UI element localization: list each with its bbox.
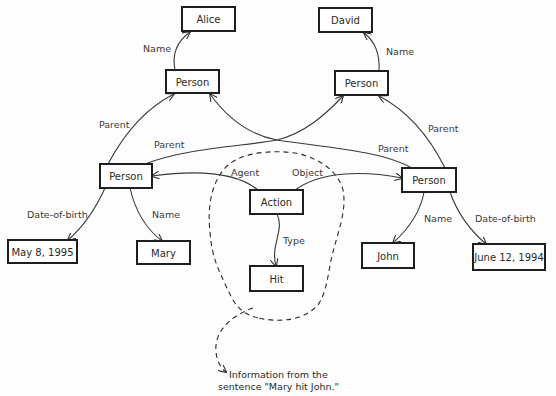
node-action: Action xyxy=(250,190,303,214)
svg-text:John: John xyxy=(376,251,399,262)
svg-text:Person: Person xyxy=(109,171,143,182)
node-person-top-left: Person xyxy=(166,70,219,93)
node-june-12-1994: June 12, 1994 xyxy=(473,244,545,270)
node-john: John xyxy=(362,243,414,268)
svg-text:Person: Person xyxy=(176,77,210,88)
edge-name-david xyxy=(364,33,379,71)
node-person-mary: Person xyxy=(100,164,152,188)
edge-label-parent-john-tr: Parent xyxy=(428,123,459,134)
edge-label-dob-mary: Date-of-birth xyxy=(27,209,88,220)
edge-label-parent-john-tl: Parent xyxy=(378,143,409,154)
svg-text:Action: Action xyxy=(261,197,292,208)
edge-label-object: Object xyxy=(292,167,323,178)
node-may-8-1995: May 8, 1995 xyxy=(8,240,77,263)
edge-type xyxy=(275,214,280,266)
node-person-john: Person xyxy=(402,168,456,192)
svg-text:Alice: Alice xyxy=(196,14,220,25)
edge-label-name-john: Name xyxy=(424,213,452,224)
svg-text:Hit: Hit xyxy=(269,274,283,285)
annotation-line-2: sentence "Mary hit John." xyxy=(218,381,339,392)
annotation-line-1: Information from the xyxy=(229,369,328,380)
node-person-top-right: Person xyxy=(335,71,388,95)
diagram-svg: Name Name Parent Parent Parent Parent Ag… xyxy=(0,0,556,396)
edge-label-type: Type xyxy=(282,235,305,246)
edge-label-parent-mary-tl: Parent xyxy=(99,119,130,130)
node-hit: Hit xyxy=(250,266,303,291)
svg-text:June 12, 1994: June 12, 1994 xyxy=(473,252,544,263)
svg-text:Mary: Mary xyxy=(151,248,176,259)
edge-parent-john-tl xyxy=(210,94,412,168)
node-david: David xyxy=(319,8,372,32)
svg-text:May 8, 1995: May 8, 1995 xyxy=(11,247,73,258)
edge-name-john xyxy=(393,192,424,243)
semantic-network-diagram: Name Name Parent Parent Parent Parent Ag… xyxy=(0,0,556,396)
edge-label-agent: Agent xyxy=(231,167,259,178)
edge-parent-mary-tr xyxy=(145,96,343,164)
edge-label-name-alice: Name xyxy=(143,43,171,54)
edge-label-parent-mary-tr: Parent xyxy=(154,139,185,150)
node-alice: Alice xyxy=(182,7,235,31)
node-mary: Mary xyxy=(137,241,190,264)
svg-text:David: David xyxy=(331,15,360,26)
edge-label-name-david: Name xyxy=(386,46,414,57)
annotation-arrow xyxy=(216,308,253,372)
edge-name-alice xyxy=(174,32,190,70)
edge-label-name-mary: Name xyxy=(152,209,180,220)
svg-text:Person: Person xyxy=(345,78,379,89)
edge-label-dob-john: Date-of-birth xyxy=(475,213,536,224)
svg-text:Person: Person xyxy=(412,175,446,186)
